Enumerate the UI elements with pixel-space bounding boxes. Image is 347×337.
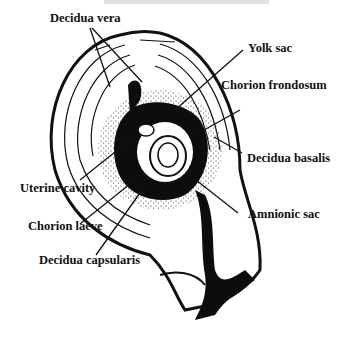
uterus-pregnancy-diagram: Decidua vera Yolk sac Chorion frondosum … bbox=[0, 0, 347, 337]
label-decidua-basalis: Decidua basalis bbox=[247, 152, 330, 165]
label-chorion-laeve: Chorion laeve bbox=[28, 220, 103, 233]
label-decidua-capsularis: Decidua capsularis bbox=[39, 254, 140, 267]
label-amnionic-sac: Amnionic sac bbox=[248, 208, 320, 221]
label-yolk-sac: Yolk sac bbox=[248, 42, 292, 55]
uterus-illustration bbox=[0, 0, 347, 337]
label-decidua-vera: Decidua vera bbox=[50, 12, 120, 25]
label-uterine-cavity: Uterine cavity bbox=[20, 182, 95, 195]
label-chorion-frondosum: Chorion frondosum bbox=[221, 79, 327, 92]
